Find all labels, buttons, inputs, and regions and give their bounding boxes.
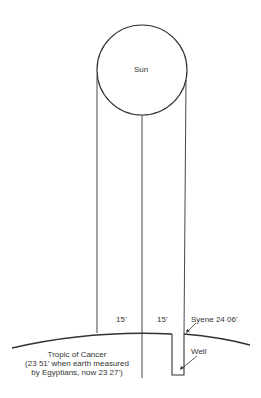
sun-label: Sun [134, 65, 148, 74]
tropic-line-2: (23 51' when earth measured [22, 359, 132, 368]
syene-label: Syene 24 06' [191, 315, 237, 324]
tropic-line-3: by Egyptians, now 23 27') [22, 368, 132, 377]
earth-surface-right [184, 334, 250, 345]
ray-right [184, 80, 186, 334]
well-arrow [181, 356, 197, 369]
tropic-line-1: Tropic of Cancer [22, 350, 132, 359]
eratosthenes-diagram [0, 0, 261, 398]
well-label: Well [191, 347, 206, 356]
angle-label-right: 15' [157, 315, 167, 324]
earth-surface-left [12, 333, 172, 348]
tropic-of-cancer-label: Tropic of Cancer (23 51' when earth meas… [22, 350, 132, 377]
angle-label-left: 15' [116, 315, 126, 324]
